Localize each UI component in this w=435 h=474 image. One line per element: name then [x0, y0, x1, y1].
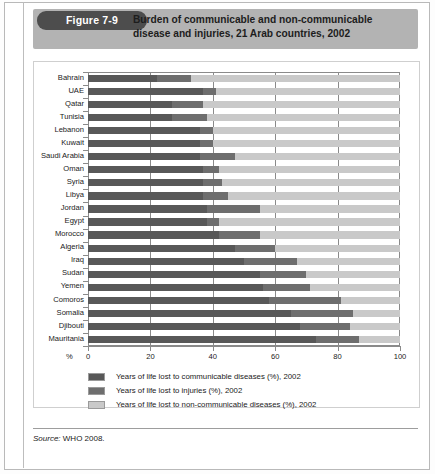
bar-segment-non_communicable [297, 258, 400, 265]
bar-segment-communicable [88, 297, 269, 304]
bar-row [88, 192, 400, 199]
y-axis-label: Jordan [61, 203, 84, 212]
bar-row [88, 153, 400, 160]
figure-title-line2: disease and injuries, 21 Arab countries,… [133, 27, 413, 41]
bar-row [88, 127, 400, 134]
bar-segment-injuries [203, 192, 228, 199]
bar-row [88, 284, 400, 291]
bar-segment-injuries [260, 271, 307, 278]
bar-row [88, 245, 400, 252]
y-axis-label: UAE [68, 86, 84, 95]
x-axis-line [88, 346, 400, 347]
bar-row [88, 336, 400, 343]
bar-segment-communicable [88, 310, 291, 317]
bar-row [88, 101, 400, 108]
bar-segment-non_communicable [219, 166, 400, 173]
y-axis-label: Yemen [61, 281, 84, 290]
x-tick-80 [338, 346, 339, 351]
y-axis-labels: BahrainUAEQatarTunisiaLebanonKuwaitSaudi… [36, 72, 84, 346]
bar-segment-injuries [269, 297, 341, 304]
bar-segment-communicable [88, 284, 263, 291]
bar-segment-non_communicable [222, 179, 400, 186]
figure-page: Figure 7-9 Burden of communicable and no… [0, 0, 435, 474]
figure-number-label: Figure 7-9 [37, 11, 147, 30]
y-axis-label: Sudan [62, 268, 84, 277]
bar-segment-communicable [88, 245, 235, 252]
bar-segment-injuries [203, 166, 219, 173]
bar-segment-non_communicable [228, 192, 400, 199]
bar-segment-injuries [291, 310, 353, 317]
bar-segment-communicable [88, 218, 207, 225]
bar-segment-non_communicable [235, 153, 400, 160]
legend-label: Years of life lost to injuries (%), 2002 [116, 384, 242, 398]
x-tick-60 [275, 346, 276, 351]
bar-segment-injuries [207, 218, 219, 225]
bar-row [88, 218, 400, 225]
y-axis-label: Algeria [60, 242, 84, 251]
bar-segment-communicable [88, 127, 200, 134]
bar-row [88, 140, 400, 147]
bar-segment-non_communicable [260, 231, 400, 238]
bar-segment-injuries [203, 88, 215, 95]
bar-segment-injuries [244, 258, 297, 265]
bar-row [88, 114, 400, 121]
bar-segment-communicable [88, 323, 300, 330]
legend-swatch-injuries [88, 387, 105, 395]
bar-segment-non_communicable [213, 127, 400, 134]
bar-segment-communicable [88, 153, 200, 160]
y-axis-label: Lebanon [54, 125, 84, 134]
bar-segment-injuries [203, 179, 222, 186]
bar-segment-non_communicable [353, 310, 400, 317]
source-note: Source: WHO 2008. [33, 434, 105, 443]
bar-row [88, 205, 400, 212]
x-tick-label-20: 20 [135, 352, 165, 361]
bar-row [88, 258, 400, 265]
bar-segment-injuries [172, 101, 203, 108]
y-axis-label: Libya [66, 190, 84, 199]
y-axis-label: Tunisia [60, 112, 84, 121]
bar-segment-non_communicable [213, 140, 400, 147]
plot-area [88, 72, 400, 346]
x-tick-0 [88, 346, 89, 351]
x-tick-40 [213, 346, 214, 351]
bar-segment-injuries [172, 114, 206, 121]
legend-item: Years of life lost to non-communicable d… [88, 398, 398, 412]
bar-segment-communicable [88, 192, 203, 199]
y-axis-label: Mauritania [49, 334, 84, 343]
x-tick-label-80: 80 [323, 352, 353, 361]
bar-segment-non_communicable [341, 297, 400, 304]
source-text: WHO 2008. [61, 434, 105, 443]
bar-segment-communicable [88, 336, 316, 343]
chart-legend: Years of life lost to communicable disea… [88, 370, 398, 412]
legend-label: Years of life lost to communicable disea… [116, 370, 301, 384]
bar-row [88, 297, 400, 304]
bar-segment-injuries [200, 127, 212, 134]
bar-segment-non_communicable [203, 101, 400, 108]
bar-segment-non_communicable [350, 323, 400, 330]
y-axis-label: Djibouti [59, 321, 84, 330]
bar-segment-non_communicable [275, 245, 400, 252]
y-axis-label: Iraq [71, 255, 84, 264]
bar-segment-communicable [88, 75, 157, 82]
x-tick-label-40: 40 [198, 352, 228, 361]
y-axis-label: Oman [63, 164, 84, 173]
bar-segment-communicable [88, 140, 200, 147]
x-tick-label-0: 0 [73, 352, 103, 361]
bar-row [88, 75, 400, 82]
bar-segment-communicable [88, 205, 207, 212]
bar-segment-communicable [88, 88, 203, 95]
y-axis-label: Egypt [65, 216, 84, 225]
bar-segment-communicable [88, 166, 203, 173]
figure-number-badge: Figure 7-9 [37, 11, 147, 30]
bar-segment-communicable [88, 231, 219, 238]
bar-row [88, 271, 400, 278]
figure-title: Burden of communicable and non-communica… [133, 13, 413, 40]
x-tick-label-60: 60 [260, 352, 290, 361]
y-axis-label: Comoros [53, 295, 84, 304]
bar-segment-non_communicable [191, 75, 400, 82]
bar-segment-injuries [219, 231, 260, 238]
bar-segment-injuries [263, 284, 310, 291]
y-axis-label: Saudi Arabia [41, 151, 84, 160]
legend-swatch-non_communicable [88, 401, 105, 409]
y-axis-label: Morocco [55, 229, 84, 238]
